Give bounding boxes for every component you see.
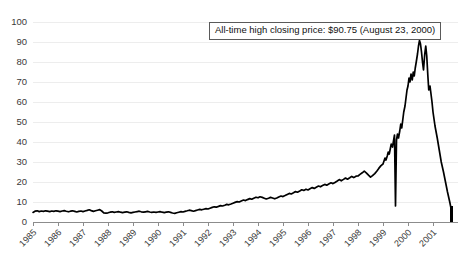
price-series	[33, 41, 452, 223]
y-tick-label: 30	[16, 156, 27, 167]
x-tick-label: 1988	[92, 227, 113, 248]
y-axis-labels: 0102030405060708090100	[11, 16, 27, 227]
x-tick-label: 1998	[342, 227, 363, 248]
all-time-high-annotation: All-time high closing price: $90.75 (Aug…	[209, 22, 441, 40]
x-tick-label: 1999	[367, 227, 388, 248]
x-tick-label: 1986	[42, 227, 63, 248]
x-tick-label: 1995	[267, 227, 288, 248]
series-line	[33, 41, 452, 214]
y-tick-label: 10	[16, 196, 27, 207]
y-tick-label: 60	[16, 96, 27, 107]
x-tick-label: 1987	[67, 227, 88, 248]
y-tick-label: 0	[22, 216, 27, 227]
y-tick-label: 20	[16, 176, 27, 187]
y-tick-label: 70	[16, 76, 27, 87]
y-tick-label: 100	[11, 16, 27, 27]
x-tick-label: 1996	[292, 227, 313, 248]
x-axis	[33, 222, 458, 226]
y-tick-label: 50	[16, 116, 27, 127]
y-tick-label: 80	[16, 56, 27, 67]
x-tick-label: 1997	[317, 227, 338, 248]
x-tick-label: 2000	[392, 227, 413, 248]
x-axis-labels: 1985198619871988198919901991199219931994…	[17, 227, 438, 248]
x-tick-label: 1994	[242, 227, 263, 248]
stock-price-chart: 0102030405060708090100 19851986198719881…	[0, 0, 471, 262]
x-tick-label: 2001	[417, 227, 438, 248]
x-tick-label: 1989	[117, 227, 138, 248]
x-tick-label: 1985	[17, 227, 38, 248]
x-tick-label: 1993	[217, 227, 238, 248]
x-tick-label: 1991	[167, 227, 188, 248]
y-tick-label: 40	[16, 136, 27, 147]
y-tick-label: 90	[16, 36, 27, 47]
x-tick-label: 1990	[142, 227, 163, 248]
x-tick-label: 1992	[192, 227, 213, 248]
